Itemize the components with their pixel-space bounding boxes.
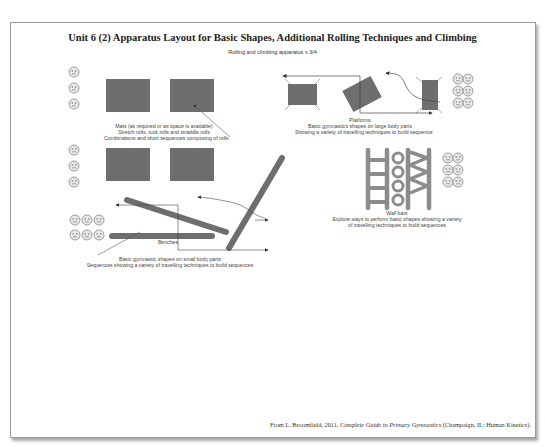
- source-credit: From L. Broomfield, 2011, Complete Guide…: [270, 421, 531, 428]
- children-group-wall-bars: [443, 153, 463, 187]
- children-group-benches: [70, 215, 104, 240]
- children-group-mats-top: [69, 67, 79, 109]
- benches-label: Benches: [148, 239, 188, 245]
- platforms: [283, 73, 442, 113]
- wall-bars: [368, 150, 429, 208]
- children-group-mats-bottom: [69, 145, 79, 187]
- benches-description: Basic gymnastic shapes on small body par…: [65, 256, 275, 268]
- children-group-platforms: [453, 74, 473, 108]
- wall-bars-label: Wall bars Explore ways to perform basic …: [322, 210, 472, 229]
- mats-label: Mats (as required or as space is availab…: [104, 123, 224, 142]
- platforms-label: Platforms Basic gymnastics shapes on lar…: [295, 117, 425, 136]
